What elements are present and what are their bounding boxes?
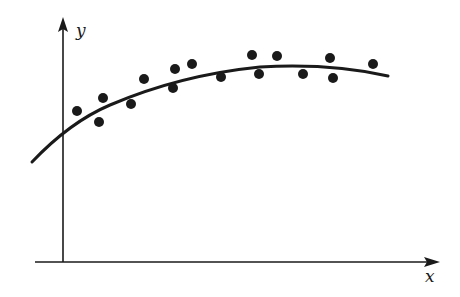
data-point [247, 50, 257, 60]
data-point [94, 117, 104, 127]
data-point [72, 106, 82, 116]
y-axis-label: y [75, 20, 86, 40]
data-point [139, 74, 149, 84]
data-point [216, 72, 226, 82]
data-points [72, 50, 378, 127]
data-point [170, 64, 180, 74]
scatter-figure: x y [0, 0, 460, 297]
y-axis [58, 17, 68, 262]
x-axis [35, 257, 440, 267]
x-axis-label: x [425, 266, 435, 286]
data-point [187, 59, 197, 69]
data-point [325, 53, 335, 63]
data-point [254, 69, 264, 79]
data-point [298, 69, 308, 79]
data-point [168, 83, 178, 93]
data-point [272, 51, 282, 61]
data-point [98, 93, 108, 103]
data-point [368, 59, 378, 69]
data-point [328, 73, 338, 83]
data-point [126, 99, 136, 109]
